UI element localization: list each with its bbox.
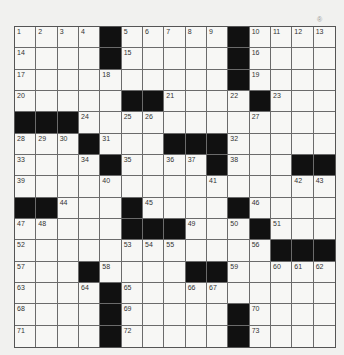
grid-cell[interactable]: [58, 283, 79, 304]
grid-cell[interactable]: 65: [122, 283, 143, 304]
grid-cell[interactable]: [186, 198, 207, 219]
grid-cell[interactable]: [271, 112, 292, 133]
grid-cell[interactable]: 46: [250, 198, 271, 219]
grid-cell[interactable]: [122, 70, 143, 91]
grid-cell[interactable]: 63: [15, 283, 36, 304]
grid-cell[interactable]: 23: [271, 91, 292, 112]
grid-cell[interactable]: 50: [228, 219, 249, 240]
grid-cell[interactable]: [207, 219, 228, 240]
grid-cell[interactable]: [207, 70, 228, 91]
grid-cell[interactable]: [58, 326, 79, 347]
grid-cell[interactable]: 61: [292, 262, 313, 283]
grid-cell[interactable]: [207, 240, 228, 261]
grid-cell[interactable]: [79, 326, 100, 347]
grid-cell[interactable]: 7: [164, 27, 185, 48]
grid-cell[interactable]: [143, 176, 164, 197]
grid-cell[interactable]: 59: [228, 262, 249, 283]
grid-cell[interactable]: [100, 91, 121, 112]
grid-cell[interactable]: [36, 91, 57, 112]
grid-cell[interactable]: [271, 304, 292, 325]
grid-cell[interactable]: 37: [186, 155, 207, 176]
grid-cell[interactable]: 11: [271, 27, 292, 48]
grid-cell[interactable]: [164, 70, 185, 91]
grid-cell[interactable]: [271, 176, 292, 197]
grid-cell[interactable]: 67: [207, 283, 228, 304]
grid-cell[interactable]: [36, 48, 57, 69]
grid-cell[interactable]: 20: [15, 91, 36, 112]
grid-cell[interactable]: [58, 155, 79, 176]
grid-cell[interactable]: 39: [15, 176, 36, 197]
grid-cell[interactable]: 22: [228, 91, 249, 112]
grid-cell[interactable]: [292, 70, 313, 91]
grid-cell[interactable]: [186, 70, 207, 91]
grid-cell[interactable]: 71: [15, 326, 36, 347]
grid-cell[interactable]: 26: [143, 112, 164, 133]
grid-cell[interactable]: [36, 176, 57, 197]
grid-cell[interactable]: [164, 48, 185, 69]
grid-cell[interactable]: [314, 48, 335, 69]
grid-cell[interactable]: [271, 326, 292, 347]
grid-cell[interactable]: 55: [164, 240, 185, 261]
grid-cell[interactable]: [79, 304, 100, 325]
grid-cell[interactable]: [58, 240, 79, 261]
grid-cell[interactable]: [36, 262, 57, 283]
grid-cell[interactable]: [250, 262, 271, 283]
grid-cell[interactable]: [100, 198, 121, 219]
grid-cell[interactable]: [271, 48, 292, 69]
grid-cell[interactable]: 2: [36, 27, 57, 48]
grid-cell[interactable]: 57: [15, 262, 36, 283]
grid-cell[interactable]: 1: [15, 27, 36, 48]
grid-cell[interactable]: [122, 134, 143, 155]
grid-cell[interactable]: [207, 304, 228, 325]
grid-cell[interactable]: [58, 48, 79, 69]
grid-cell[interactable]: [228, 112, 249, 133]
grid-cell[interactable]: 73: [250, 326, 271, 347]
grid-cell[interactable]: [186, 48, 207, 69]
grid-cell[interactable]: [143, 155, 164, 176]
grid-cell[interactable]: 62: [314, 262, 335, 283]
grid-cell[interactable]: [271, 283, 292, 304]
grid-cell[interactable]: [36, 155, 57, 176]
grid-cell[interactable]: 10: [250, 27, 271, 48]
grid-cell[interactable]: 34: [79, 155, 100, 176]
grid-cell[interactable]: [79, 240, 100, 261]
grid-cell[interactable]: [228, 240, 249, 261]
grid-cell[interactable]: [314, 219, 335, 240]
grid-cell[interactable]: 69: [122, 304, 143, 325]
grid-cell[interactable]: 16: [250, 48, 271, 69]
grid-cell[interactable]: 28: [15, 134, 36, 155]
grid-cell[interactable]: 43: [314, 176, 335, 197]
grid-cell[interactable]: [250, 134, 271, 155]
grid-cell[interactable]: [186, 240, 207, 261]
grid-cell[interactable]: [164, 262, 185, 283]
grid-cell[interactable]: [228, 283, 249, 304]
grid-cell[interactable]: [292, 326, 313, 347]
grid-cell[interactable]: 42: [292, 176, 313, 197]
grid-cell[interactable]: 32: [228, 134, 249, 155]
grid-cell[interactable]: 40: [100, 176, 121, 197]
grid-cell[interactable]: [36, 240, 57, 261]
grid-cell[interactable]: [100, 219, 121, 240]
grid-cell[interactable]: [36, 283, 57, 304]
grid-cell[interactable]: [314, 326, 335, 347]
grid-cell[interactable]: [292, 219, 313, 240]
grid-cell[interactable]: 54: [143, 240, 164, 261]
grid-cell[interactable]: [164, 112, 185, 133]
grid-cell[interactable]: 27: [250, 112, 271, 133]
grid-cell[interactable]: [79, 91, 100, 112]
grid-cell[interactable]: 70: [250, 304, 271, 325]
grid-cell[interactable]: 3: [58, 27, 79, 48]
grid-cell[interactable]: [143, 70, 164, 91]
grid-cell[interactable]: 9: [207, 27, 228, 48]
grid-cell[interactable]: [250, 176, 271, 197]
grid-cell[interactable]: [164, 304, 185, 325]
grid-cell[interactable]: [79, 219, 100, 240]
grid-cell[interactable]: [314, 91, 335, 112]
grid-cell[interactable]: 72: [122, 326, 143, 347]
grid-cell[interactable]: [207, 326, 228, 347]
grid-cell[interactable]: [292, 283, 313, 304]
grid-cell[interactable]: [164, 326, 185, 347]
grid-cell[interactable]: [122, 176, 143, 197]
grid-cell[interactable]: 29: [36, 134, 57, 155]
grid-cell[interactable]: [271, 70, 292, 91]
